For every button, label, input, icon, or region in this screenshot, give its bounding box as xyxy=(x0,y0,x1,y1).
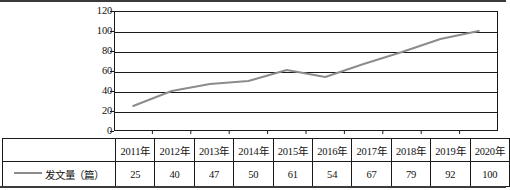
table-header-cell-2014年: 2014年 xyxy=(234,139,273,162)
table-header-cell-2016年: 2016年 xyxy=(312,139,351,162)
table-value-cell-2019年: 92 xyxy=(431,162,470,187)
table-header-cell-2019年: 2019年 xyxy=(431,139,470,162)
y-tick-label: 80 xyxy=(90,46,112,56)
y-tick-mark xyxy=(110,111,114,112)
table-header-cell-2013年: 2013年 xyxy=(194,139,233,162)
y-tick-mark xyxy=(110,11,114,12)
table-row-header: 2011年2012年2013年2014年2015年2016年2017年2018年… xyxy=(3,139,510,162)
table-value-cell-2020年: 100 xyxy=(470,162,509,187)
y-tick-label: 20 xyxy=(90,106,112,116)
table-row-values: 发文量（篇） 254047506154677992100 xyxy=(3,162,510,187)
table-value-cell-2018年: 79 xyxy=(391,162,430,187)
y-tick-label: 0 xyxy=(90,126,112,136)
table-value-cell-2012年: 40 xyxy=(155,162,194,187)
table-value-cell-2015年: 61 xyxy=(273,162,312,187)
table-value-cell-2017年: 67 xyxy=(352,162,391,187)
table-value-cell-2014年: 50 xyxy=(234,162,273,187)
y-tick-mark xyxy=(110,31,114,32)
table-value-cell-2011年: 25 xyxy=(116,162,155,187)
y-tick-mark xyxy=(110,131,114,132)
page-bottom-rule xyxy=(0,186,506,188)
series-line-chart xyxy=(114,11,498,131)
table-value-cell-2016年: 54 xyxy=(312,162,351,187)
table-header-cell-2012年: 2012年 xyxy=(155,139,194,162)
y-tick-mark xyxy=(110,51,114,52)
page-top-rule xyxy=(0,0,506,2)
table-corner-cell xyxy=(3,139,116,162)
table-value-cell-2013年: 47 xyxy=(194,162,233,187)
table-header-cell-2011年: 2011年 xyxy=(116,139,155,162)
table-header-cell-2018年: 2018年 xyxy=(391,139,430,162)
y-tick-mark xyxy=(110,71,114,72)
table-header-cell-2017年: 2017年 xyxy=(352,139,391,162)
table-header-cell-2020年: 2020年 xyxy=(470,139,509,162)
y-tick-mark xyxy=(110,91,114,92)
line-marker-icon xyxy=(14,172,42,174)
y-tick-label: 60 xyxy=(90,66,112,76)
table-header-cell-2015年: 2015年 xyxy=(273,139,312,162)
y-tick-label: 40 xyxy=(90,86,112,96)
y-tick-label: 120 xyxy=(90,6,112,16)
y-tick-label: 100 xyxy=(90,26,112,36)
series-line xyxy=(133,31,479,106)
legend-cell: 发文量（篇） xyxy=(3,162,116,187)
data-table: 2011年2012年2013年2014年2015年2016年2017年2018年… xyxy=(2,138,510,187)
legend-label: 发文量（篇） xyxy=(45,169,104,181)
